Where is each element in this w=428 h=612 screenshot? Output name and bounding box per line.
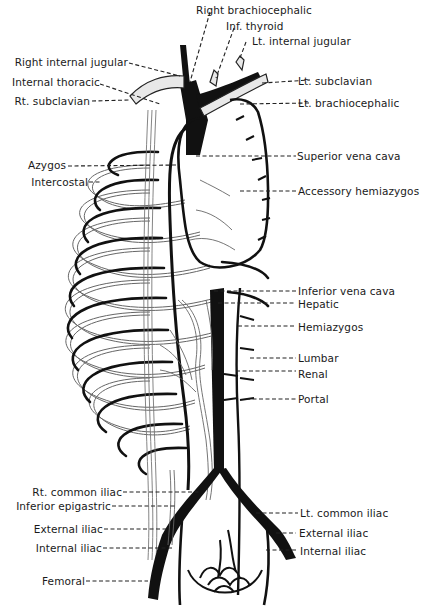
label-external-iliac-right: External iliac <box>299 527 368 539</box>
label-rt-subclavian: Rt. subclavian <box>4 95 90 107</box>
label-right-brachiocephalic: Right brachiocephalic <box>196 4 312 16</box>
iliac-veins <box>148 468 296 600</box>
label-internal-thoracic: Internal thoracic <box>4 76 100 88</box>
label-femoral: Femoral <box>4 575 85 587</box>
accessory-hemiazygos-branches <box>236 116 270 240</box>
venous-system-diagram: Right internal jugular Internal thoracic… <box>0 0 428 612</box>
label-superior-vena-cava: Superior vena cava <box>297 150 401 162</box>
lumbar-veins <box>224 316 254 400</box>
label-hemiazygos: Hemiazygos <box>298 321 363 333</box>
label-internal-iliac-left: Internal iliac <box>4 542 102 554</box>
label-lt-subclavian: Lt. subclavian <box>298 75 372 87</box>
hemiazygos-vein <box>237 288 240 595</box>
label-inferior-epigastric: Inferior epigastric <box>4 500 111 512</box>
label-lt-internal-jugular: Lt. internal jugular <box>252 35 351 47</box>
label-accessory-hemiazygos: Accessory hemiazygos <box>298 185 419 197</box>
label-inferior-vena-cava: Inferior vena cava <box>298 285 395 297</box>
label-lt-brachiocephalic: Lt. brachiocephalic <box>298 97 399 109</box>
label-inf-thyroid: Inf. thyroid <box>226 20 284 32</box>
label-internal-iliac-right: Internal iliac <box>300 545 366 557</box>
label-lt-common-iliac: Lt. common iliac <box>300 507 388 519</box>
inferior-vena-cava <box>210 288 224 470</box>
label-external-iliac-left: External iliac <box>4 523 103 535</box>
label-right-internal-jugular: Right internal jugular <box>10 56 128 68</box>
label-azygos: Azygos <box>4 159 66 171</box>
label-portal: Portal <box>298 393 329 405</box>
diagram-artwork <box>0 0 428 612</box>
label-rt-common-iliac: Rt. common iliac <box>4 486 122 498</box>
label-hepatic: Hepatic <box>298 298 339 310</box>
pelvic-venous-plexus <box>188 530 262 593</box>
label-lumbar: Lumbar <box>298 352 339 364</box>
label-renal: Renal <box>298 368 328 380</box>
label-intercostal: Intercostal <box>4 176 88 188</box>
